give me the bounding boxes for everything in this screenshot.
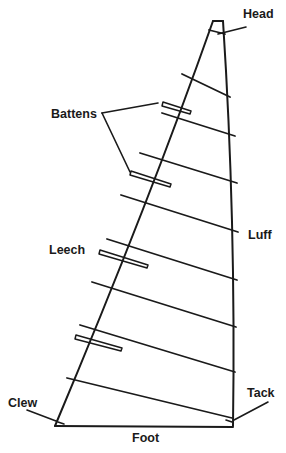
clew-mark	[58, 422, 64, 424]
foot-edge	[55, 426, 233, 427]
seam	[107, 239, 237, 280]
head-label: Head	[243, 8, 274, 21]
batten-pocket	[130, 171, 171, 187]
battens-label: Battens	[51, 108, 97, 121]
seam	[92, 282, 236, 327]
tack-mark	[226, 420, 232, 422]
sail-diagram	[0, 0, 286, 453]
head-leader	[218, 27, 246, 34]
battens-leader-lower	[102, 113, 130, 172]
panel-seams	[67, 30, 238, 418]
seam	[67, 378, 232, 418]
leech-edge	[55, 21, 213, 426]
clew-leader	[27, 410, 56, 421]
battens	[75, 102, 191, 351]
luff-label: Luff	[248, 229, 272, 242]
tack-label: Tack	[247, 387, 275, 400]
foot-label: Foot	[132, 432, 159, 445]
luff-edge	[223, 21, 234, 426]
clew-label: Clew	[8, 397, 37, 410]
sail-outline	[55, 21, 234, 427]
seam	[121, 195, 238, 232]
tack-leader	[234, 402, 268, 420]
seam	[80, 325, 235, 372]
battens-leader-upper	[102, 103, 158, 113]
batten-pocket	[75, 335, 122, 351]
batten-pocket	[162, 102, 191, 114]
leech-label: Leech	[49, 244, 85, 257]
